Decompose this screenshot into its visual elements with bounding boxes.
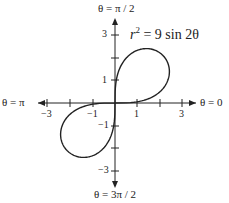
arrow-right-icon bbox=[189, 100, 196, 106]
label-top: θ = π / 2 bbox=[98, 2, 135, 14]
label-left: θ = π bbox=[2, 96, 25, 108]
xtick-m3: −3 bbox=[41, 108, 52, 119]
ytick-m1: −1 bbox=[98, 119, 109, 130]
ytick-1: 1 bbox=[102, 74, 107, 85]
label-right: θ = 0 bbox=[200, 96, 222, 108]
xtick-1: 1 bbox=[134, 108, 139, 119]
arrow-up-icon bbox=[112, 18, 118, 25]
equation: r2 = 9 sin 2θ bbox=[130, 25, 199, 43]
arrow-down-icon bbox=[112, 181, 118, 188]
ytick-m3: −3 bbox=[98, 164, 109, 175]
arrow-left-icon bbox=[38, 100, 45, 106]
label-bottom: θ = 3π / 2 bbox=[94, 188, 136, 200]
xtick-3: 3 bbox=[179, 108, 184, 119]
xtick-m1: −1 bbox=[87, 108, 98, 119]
ytick-3: 3 bbox=[102, 28, 107, 39]
